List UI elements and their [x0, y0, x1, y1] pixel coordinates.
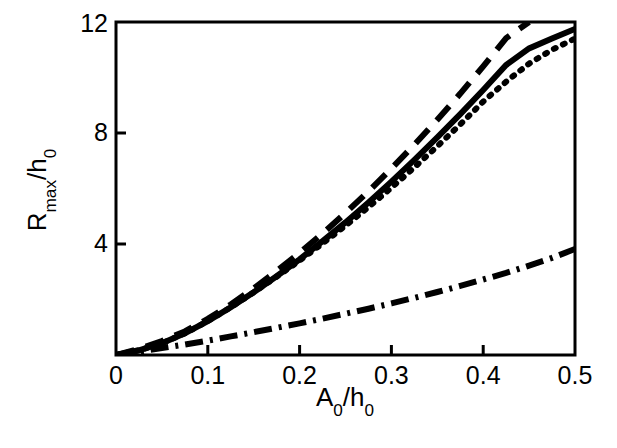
y-tick-label-12-text: 12: [80, 11, 108, 36]
x-tick-label-2: 0.2: [282, 363, 317, 388]
figure-canvas: 0 0.1 0.2 0.3 0.4 0.5 4 8 12 A0/h0 Rmax/…: [0, 0, 617, 448]
x-axis-title-main: A: [316, 382, 333, 412]
x-axis-title-sub1: 0: [333, 400, 343, 420]
x-tick-label-0: 0: [109, 363, 123, 388]
x-tick-label-1: 0.1: [190, 363, 225, 388]
axes-frame: [116, 22, 575, 355]
y-axis-title-main: R: [22, 212, 52, 231]
y-axis-title-sub1: max: [40, 180, 60, 212]
x-tick-label-5: 0.5: [558, 363, 593, 388]
y-tick-label-8-text: 8: [94, 120, 108, 145]
x-tick-label-4: 0.4: [466, 363, 501, 388]
x-tick-label-3: 0.3: [374, 363, 409, 388]
x-axis-title-sub2: 0: [365, 400, 375, 420]
x-axis-title: A0/h0: [316, 384, 374, 415]
y-axis-title: Rmax/h0: [24, 149, 55, 231]
y-axis-title-mid: /h: [22, 158, 52, 180]
y-tick-label-4-text: 4: [94, 231, 108, 256]
x-axis-title-mid: /h: [343, 382, 365, 412]
y-axis-title-sub2: 0: [40, 149, 60, 159]
